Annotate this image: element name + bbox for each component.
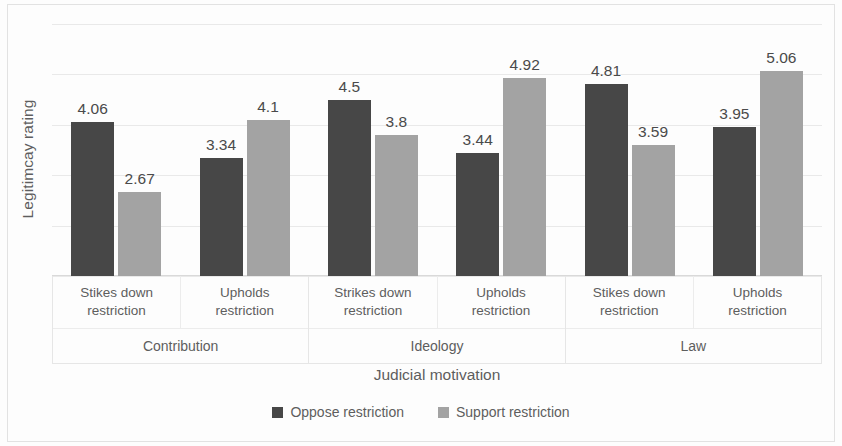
legend-label: Support restriction xyxy=(456,404,570,420)
bar-rect xyxy=(503,78,546,276)
bar[interactable]: 4.06 xyxy=(71,24,114,276)
subcategory-label: Upholdsrestriction xyxy=(694,276,821,328)
bar-value-label: 3.34 xyxy=(206,136,236,154)
legend-item[interactable]: Support restriction xyxy=(438,404,570,420)
subcategory-row: Strikes downrestrictionUpholdsrestrictio… xyxy=(309,276,564,329)
x-axis-title: Judicial motivation xyxy=(52,366,822,384)
bar-subgroup: 4.062.67 xyxy=(52,24,180,276)
bar[interactable]: 5.06 xyxy=(760,24,803,276)
bar-group: 4.062.673.344.1 xyxy=(52,24,309,276)
bar-value-label: 5.06 xyxy=(766,49,796,67)
bar-value-label: 3.8 xyxy=(386,113,408,131)
subcategory-label: Stikes downrestriction xyxy=(53,276,181,328)
legend-swatch-icon xyxy=(438,407,449,418)
category-label: Contribution xyxy=(53,329,308,363)
bar-rect xyxy=(200,158,243,276)
subcategory-label: Strikes downrestriction xyxy=(309,276,437,328)
chart-legend: Oppose restrictionSupport restriction xyxy=(0,404,842,420)
bar-group: 4.813.593.955.06 xyxy=(565,24,822,276)
bar-value-label: 4.1 xyxy=(257,98,279,116)
legend-label: Oppose restriction xyxy=(290,404,404,420)
category-label: Law xyxy=(566,329,821,363)
bar-subgroup: 3.955.06 xyxy=(694,24,822,276)
y-axis-title: Legitimcay rating xyxy=(19,69,37,249)
bar-rect xyxy=(456,153,499,276)
bar-value-label: 4.81 xyxy=(591,62,621,80)
bar-rect xyxy=(328,100,371,276)
bar-rect xyxy=(118,192,161,276)
bar[interactable]: 4.92 xyxy=(503,24,546,276)
chart-container: Legitimcay rating 654321 4.062.673.344.1… xyxy=(0,0,842,446)
bar-subgroup: 3.344.1 xyxy=(180,24,308,276)
bar-groups: 4.062.673.344.14.53.83.444.924.813.593.9… xyxy=(52,24,822,276)
bar-value-label: 4.92 xyxy=(510,56,540,74)
bar-subgroup: 4.813.59 xyxy=(565,24,693,276)
bar-rect xyxy=(632,145,675,276)
bar[interactable]: 3.59 xyxy=(632,24,675,276)
bar-rect xyxy=(713,127,756,276)
bar-rect xyxy=(585,84,628,276)
bar[interactable]: 4.81 xyxy=(585,24,628,276)
legend-item[interactable]: Oppose restriction xyxy=(272,404,404,420)
bar-group: 4.53.83.444.92 xyxy=(309,24,566,276)
category-group: Strikes downrestrictionUpholdsrestrictio… xyxy=(309,276,565,363)
bar-rect xyxy=(247,120,290,276)
bar-subgroup: 3.444.92 xyxy=(437,24,565,276)
bar-value-label: 3.44 xyxy=(463,131,493,149)
bar[interactable]: 3.8 xyxy=(375,24,418,276)
bar-value-label: 4.5 xyxy=(339,78,361,96)
bar[interactable]: 3.95 xyxy=(713,24,756,276)
subcategory-label: Stikes downrestriction xyxy=(566,276,694,328)
bar-subgroup: 4.53.8 xyxy=(309,24,437,276)
bar[interactable]: 4.5 xyxy=(328,24,371,276)
bar-value-label: 3.95 xyxy=(719,105,749,123)
bar[interactable]: 3.34 xyxy=(200,24,243,276)
bar-rect xyxy=(760,71,803,276)
bar[interactable]: 3.44 xyxy=(456,24,499,276)
category-label: Ideology xyxy=(309,329,564,363)
category-group: Stikes downrestrictionUpholdsrestriction… xyxy=(566,276,821,363)
bar-value-label: 2.67 xyxy=(125,170,155,188)
bar-value-label: 4.06 xyxy=(78,100,108,118)
legend-swatch-icon xyxy=(272,407,283,418)
category-group: Stikes downrestrictionUpholdsrestriction… xyxy=(53,276,309,363)
plot-area: 654321 4.062.673.344.14.53.83.444.924.81… xyxy=(52,24,822,276)
bar-rect xyxy=(375,135,418,276)
bar[interactable]: 4.1 xyxy=(247,24,290,276)
subcategory-label: Upholdsrestriction xyxy=(181,276,308,328)
bar-value-label: 3.59 xyxy=(638,123,668,141)
category-label-band: Stikes downrestrictionUpholdsrestriction… xyxy=(52,276,822,364)
subcategory-row: Stikes downrestrictionUpholdsrestriction xyxy=(53,276,308,329)
bar[interactable]: 2.67 xyxy=(118,24,161,276)
subcategory-label: Upholdsrestriction xyxy=(438,276,565,328)
subcategory-row: Stikes downrestrictionUpholdsrestriction xyxy=(566,276,821,329)
bar-rect xyxy=(71,122,114,276)
